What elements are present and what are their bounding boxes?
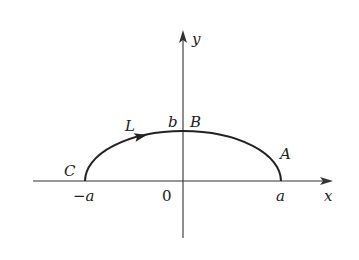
- x-axis-label: x: [324, 187, 333, 205]
- y-axis-label: y: [191, 30, 201, 48]
- y-axis: [179, 30, 187, 238]
- point-label-B: B: [189, 113, 201, 131]
- ellipse-diagram: y x 0 −a a b B A C L: [0, 0, 359, 260]
- origin-label: 0: [162, 187, 172, 205]
- curve-label-L: L: [124, 117, 135, 135]
- point-label-A: A: [278, 145, 291, 163]
- tick-label-a: a: [276, 187, 285, 205]
- tick-label-neg-a: −a: [73, 187, 95, 205]
- point-label-C: C: [64, 162, 76, 180]
- tick-label-b: b: [168, 113, 178, 131]
